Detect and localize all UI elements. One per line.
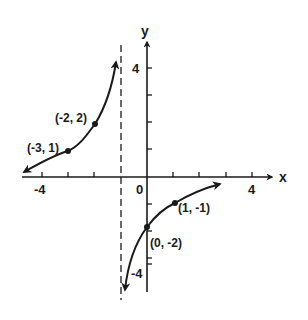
- x-tick-label-pos4: 4: [248, 182, 256, 197]
- y-tick-label-neg4: -4: [131, 266, 143, 281]
- x-tick-label-neg4: -4: [34, 182, 46, 197]
- annotation-m2-2: (-2, 2): [55, 111, 87, 125]
- point-m3-1: [65, 148, 71, 154]
- y-tick-label-pos4: 4: [132, 61, 140, 76]
- x-tick-label-zero: 0: [136, 182, 143, 197]
- y-axis-label: y: [141, 23, 149, 39]
- annotation-1-m1: (1, -1): [178, 201, 210, 215]
- annotation-0-m2: (0, -2): [150, 236, 182, 250]
- point-0-m2: [144, 224, 150, 230]
- point-m2-2: [92, 121, 98, 127]
- graph-canvas: x y -4 0 4 4 -4 (-3, 1) (-2, 2) (0, -2) …: [0, 0, 308, 320]
- y-axis: [147, 42, 152, 292]
- x-axis-label: x: [279, 169, 287, 185]
- annotation-m3-1: (-3, 1): [27, 141, 59, 155]
